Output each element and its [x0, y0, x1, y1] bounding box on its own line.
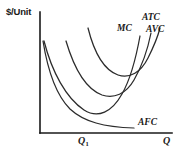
x-tick-label-q1: Q1 [78, 136, 88, 146]
cost-curves-figure: $/Unit MC ATC AVC AFC Q1 Q [0, 0, 185, 160]
curves-group [43, 28, 160, 128]
avc-curve-label: AVC [146, 25, 164, 35]
atc-curve-label: ATC [142, 13, 160, 23]
mc-curve [44, 36, 140, 114]
x-tick-label-q1-subscript: 1 [86, 140, 89, 147]
afc-curve [43, 41, 134, 128]
mc-curve-label: MC [117, 24, 132, 34]
atc-curve [88, 28, 160, 76]
x-tick-label-q1-base: Q [78, 135, 85, 146]
x-axis-label: Q [163, 136, 170, 146]
afc-curve-label: AFC [138, 118, 157, 128]
y-axis-label: $/Unit [6, 7, 31, 17]
